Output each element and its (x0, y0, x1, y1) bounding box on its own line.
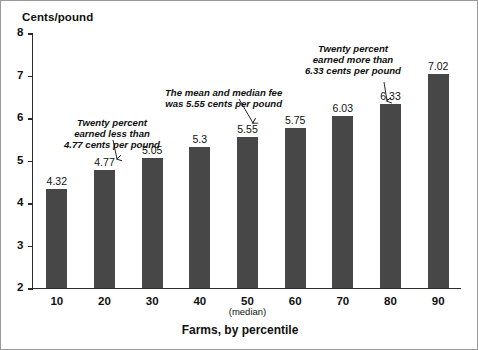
x-tick-label-50: 50(median) (229, 295, 267, 317)
x-tick-label-20: 20 (98, 295, 111, 307)
x-tick-label-text-80: 80 (384, 295, 397, 307)
x-tick-label-90: 90 (432, 295, 445, 307)
annotation-p80: Twenty percent earned more than 6.33 cen… (305, 43, 401, 77)
x-tick-label-60: 60 (289, 295, 302, 307)
annotation-p20-line-1: Twenty percent (64, 117, 160, 128)
x-tick-label-text-40: 40 (193, 295, 206, 307)
annotation-median: The mean and median fee was 5.55 cents p… (165, 87, 282, 109)
x-tick-label-text-70: 70 (336, 295, 349, 307)
annotation-median-line-1: The mean and median fee (165, 87, 282, 98)
x-tick-label-text-20: 20 (98, 295, 111, 307)
annotation-p20-line-3: 4.77 cents per pound (64, 139, 160, 150)
x-tick-label-text-60: 60 (289, 295, 302, 307)
annotation-p80-line-2: earned more than (305, 54, 401, 65)
x-tick-label-text-30: 30 (146, 295, 159, 307)
annotation-p80-line-1: Twenty percent (305, 43, 401, 54)
x-tick-label-text-90: 90 (432, 295, 445, 307)
x-axis-title: Farms, by percentile (1, 323, 478, 337)
x-tick-label-text-10: 10 (50, 295, 63, 307)
annotation-p20: Twenty percent earned less than 4.77 cen… (64, 117, 160, 151)
y-tick-label-6: 6 (17, 111, 23, 124)
y-tick-label-3: 3 (17, 239, 23, 252)
y-tick-label-8: 8 (17, 26, 23, 39)
x-tick-label-10: 10 (50, 295, 63, 307)
y-tick-label-5: 5 (17, 154, 23, 167)
y-tick-label-7: 7 (17, 69, 23, 82)
y-axis-title: Cents/pound (22, 11, 93, 23)
annotation-median-line-2: was 5.55 cents per pound (165, 98, 282, 109)
x-tick-label-80: 80 (384, 295, 397, 307)
y-tick-label-4: 4 (17, 196, 23, 209)
x-tick-label-40: 40 (193, 295, 206, 307)
annotation-p80-line-3: 6.33 cents per pound (305, 65, 401, 76)
bar-chart-figure: Cents/pound 8765432 4.324.775.055.35.555… (0, 0, 478, 350)
y-tick-label-2: 2 (17, 281, 23, 294)
x-tick-sublabel-50: (median) (229, 306, 267, 317)
x-tick-label-30: 30 (146, 295, 159, 307)
x-tick-label-70: 70 (336, 295, 349, 307)
annotation-p20-line-2: earned less than (64, 128, 160, 139)
